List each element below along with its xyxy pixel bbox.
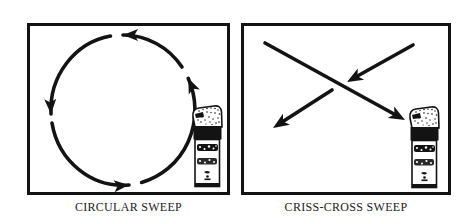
sweep-line-lower-left [279, 90, 332, 124]
circle-arc-bottom-right [142, 78, 195, 182]
arrowhead-center-icon [344, 69, 364, 88]
sweep-patterns-figure: CIRCULAR SWEEP CRISS-CROSS SWEEP [0, 0, 464, 224]
sweep-line-upper-right [353, 45, 413, 79]
spray-can-icon [410, 107, 439, 188]
arrowhead-lower-right-icon [388, 107, 408, 126]
sweep-line-long [265, 43, 394, 114]
criss-cross-sweep-diagram [241, 23, 451, 195]
circular-sweep-caption: CIRCULAR SWEEP [27, 200, 230, 215]
circular-sweep-panel [27, 23, 230, 195]
criss-cross-sweep-caption: CRISS-CROSS SWEEP [241, 200, 451, 215]
circle-arc-top-left [51, 36, 111, 114]
criss-cross-sweep-panel [241, 23, 451, 195]
circle-arc-bottom-left [52, 123, 129, 185]
circle-arc-top-right [123, 35, 182, 67]
circular-sweep-diagram [27, 23, 230, 195]
spray-can-icon [193, 106, 222, 187]
